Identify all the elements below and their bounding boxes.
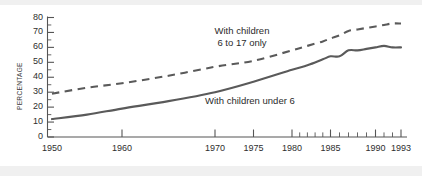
axes-group [48, 17, 408, 138]
series-line-children-under-6 [52, 46, 401, 119]
plot-area [0, 0, 422, 176]
chart-figure: PERCENTAGE 01020304050607080 19501960197… [0, 0, 422, 176]
series-group [52, 23, 401, 119]
series-line-children-6-to-17 [52, 23, 401, 93]
